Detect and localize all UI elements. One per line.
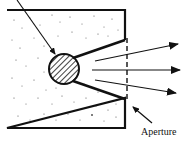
aperture-pointer-arrow bbox=[133, 107, 152, 123]
outgoing-ray-bottom bbox=[95, 80, 176, 93]
incoming-ray-arrow bbox=[17, 0, 55, 54]
aperture-label: Aperture bbox=[141, 126, 177, 137]
blackbody-cavity-diagram bbox=[0, 0, 185, 142]
upper-cavity-wall bbox=[73, 40, 125, 58]
hatched-source-sphere bbox=[49, 54, 79, 84]
